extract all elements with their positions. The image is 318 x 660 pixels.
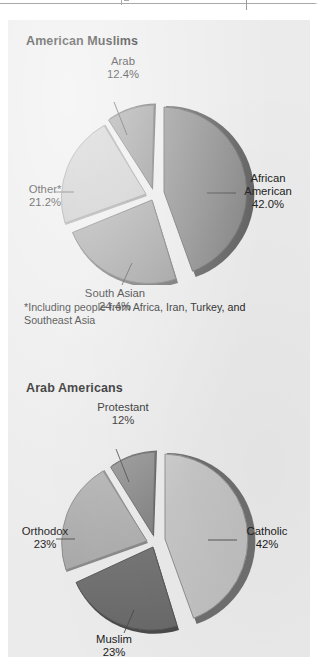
pie-label-muslim-value: 23%: [74, 646, 154, 659]
pie-label-catholic-value: 42%: [232, 538, 302, 551]
pie-label-orthodox: Orthodox 23%: [10, 525, 80, 551]
page-top-tick-right: [246, 0, 247, 10]
pie-label-catholic-name: Catholic: [232, 525, 302, 538]
pie-label-catholic: Catholic 42%: [232, 525, 302, 551]
pie-label-african-american-name-1: African: [230, 172, 306, 185]
chart-footnote-american-muslims: *Including people from Africa, Iran, Tur…: [24, 301, 292, 327]
pie-label-orthodox-name: Orthodox: [10, 525, 80, 538]
pie-label-arab-value: 12.4%: [86, 68, 160, 81]
pie-label-african-american: African American 42.0%: [230, 172, 306, 212]
pie-label-orthodox-value: 23%: [10, 538, 80, 551]
pie-label-african-american-name-2: American: [230, 185, 306, 198]
chart-title-american-muslims: American Muslims: [26, 34, 138, 48]
pie-label-muslim-name: Muslim: [74, 633, 154, 646]
page-top-tick-left-arm: [124, 0, 129, 1]
pie-label-protestant-name: Protestant: [74, 401, 172, 414]
pie-label-arab-name: Arab: [86, 55, 160, 68]
pie-label-protestant-value: 12%: [74, 414, 172, 427]
pie-label-other-value: 21.2%: [14, 196, 76, 209]
pie-label-south-asian-name: South Asian: [66, 287, 164, 300]
pie-label-arab: Arab 12.4%: [86, 55, 160, 81]
pie-label-other-name: Other*: [14, 183, 76, 196]
page-top-tick-left: [121, 0, 122, 5]
pie-label-other: Other* 21.2%: [14, 183, 76, 209]
figure-panel: American Muslims: [8, 20, 310, 657]
pie-label-protestant: Protestant 12%: [74, 401, 172, 427]
pie-label-muslim: Muslim 23%: [74, 633, 154, 659]
scanned-page: American Muslims: [0, 0, 318, 660]
chart-title-arab-americans: Arab Americans: [26, 381, 123, 395]
pie-label-african-american-value: 42.0%: [230, 198, 306, 211]
page-top-rule: [0, 3, 318, 4]
